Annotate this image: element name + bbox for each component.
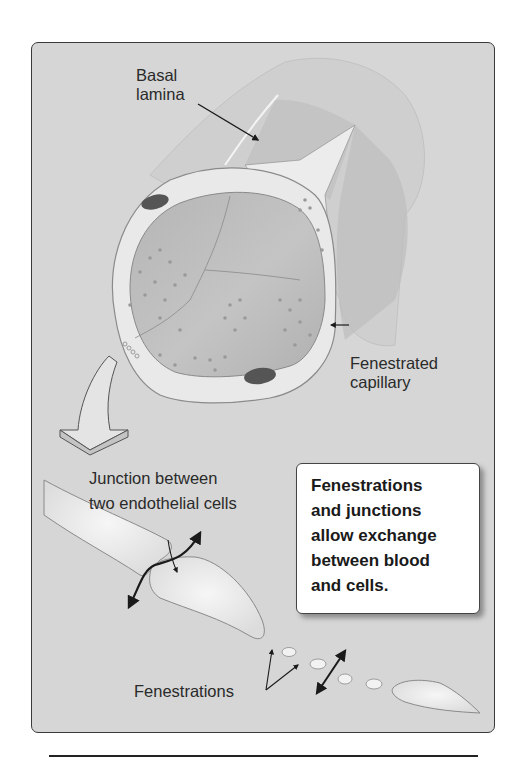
fenestration-pores <box>282 648 382 690</box>
callout-text: Fenestrations and junctions allow exchan… <box>311 473 479 598</box>
fenestration-exchange-arrow <box>317 651 345 693</box>
fenestrations-arrow-1 <box>266 650 272 690</box>
label-basal-lamina: Basal lamina <box>136 66 185 104</box>
fenestrations-arrow-2 <box>266 665 298 690</box>
label-junction: Junction between two endothelial cells <box>89 466 237 516</box>
capillary-illustration <box>0 0 526 767</box>
capillary-cross-section <box>112 168 335 403</box>
zoom-arrow-icon <box>60 356 128 455</box>
label-fenestrated-capillary: Fenestrated capillary <box>350 354 438 392</box>
label-fenestrations: Fenestrations <box>134 682 234 701</box>
bottom-rule <box>49 755 478 757</box>
callout-box: Fenestrations and junctions allow exchan… <box>296 463 480 614</box>
